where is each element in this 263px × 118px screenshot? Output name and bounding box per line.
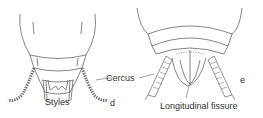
label-cercus: Cercus <box>106 74 135 83</box>
label-panel-e: e <box>240 76 245 85</box>
label-styles: Styles <box>45 98 70 107</box>
panel-d-drawing <box>8 14 112 103</box>
panel-e-drawing <box>137 8 242 100</box>
label-longitudinal-fissure: Longitudinal fissure <box>160 102 238 111</box>
label-panel-d: d <box>110 99 115 108</box>
insect-abdomen-diagram: Cercus Styles d e Longitudinal fissure <box>0 0 263 118</box>
